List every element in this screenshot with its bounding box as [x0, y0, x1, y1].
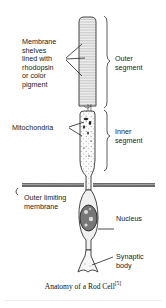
- caption-citation[interactable]: [5]: [115, 280, 121, 286]
- label-membrane-shelves: Membrane shelves lined with rhodopsin or…: [22, 38, 56, 90]
- inner-segment-bracket: [104, 110, 110, 171]
- label-mitochondria: Mitochondria: [12, 124, 53, 133]
- synaptic-body: [78, 250, 98, 272]
- outer-segment: [79, 17, 96, 112]
- label-nucleus: Nucleus: [116, 215, 142, 224]
- outer-segment-bracket: [104, 16, 110, 108]
- nucleus-region: [79, 190, 98, 250]
- figure-caption: Anatomy of a Rod Cell[5]: [0, 280, 166, 291]
- label-synaptic-body: Synaptic body: [116, 253, 144, 270]
- caption-title: Anatomy of a Rod Cell: [45, 282, 115, 291]
- label-outer-segment: Outer segment: [115, 55, 143, 72]
- label-inner-segment: Inner segment: [115, 128, 143, 145]
- divider: [4, 300, 162, 301]
- label-outer-limiting-membrane: Outer limiting membrane: [24, 194, 66, 211]
